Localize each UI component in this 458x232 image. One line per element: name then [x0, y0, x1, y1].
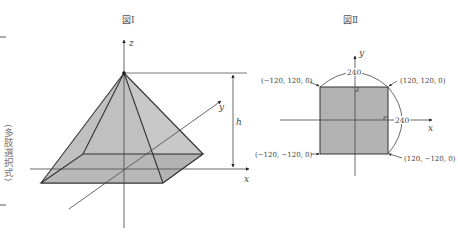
figure-2: 図Ⅱ 240 240 (−120, 120, 0) (120, 120, 0) …	[255, 15, 456, 176]
right-side-length: 240	[395, 116, 410, 125]
figure-1: 図Ⅰ h z y x	[30, 15, 249, 228]
leader-bottom-right	[389, 154, 402, 158]
figure-1-title: 図Ⅰ	[122, 15, 135, 25]
square-base	[320, 87, 388, 154]
corner-label-bottom-left: (−120, −120, 0)	[255, 151, 313, 159]
z-axis-label: z	[128, 38, 134, 48]
leader-top-right	[389, 81, 397, 86]
diagram-canvas: 図Ⅰ h z y x 図Ⅱ	[0, 0, 458, 232]
figure-2-title: 図Ⅱ	[343, 15, 358, 25]
x-axis-label: x	[244, 174, 249, 184]
corner-label-bottom-right: (120, −120, 0)	[404, 155, 456, 163]
figure-2-x-axis-label: x	[428, 123, 433, 133]
figure-2-y-axis-label: y	[358, 48, 365, 58]
corner-label-top-right: (120, 120, 0)	[400, 77, 446, 85]
top-side-length: 240	[347, 68, 362, 77]
height-label: h	[236, 117, 242, 127]
y-axis-label: y	[218, 102, 225, 112]
corner-label-top-left: (−120, 120, 0)	[261, 77, 313, 85]
